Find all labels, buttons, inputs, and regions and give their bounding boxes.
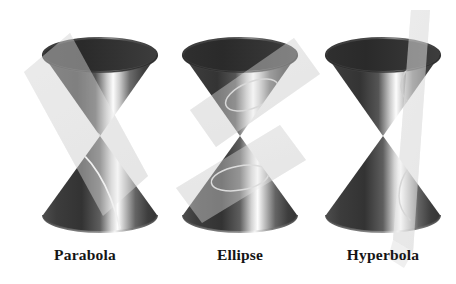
label-ellipse: Ellipse [217,246,263,263]
label-parabola: Parabola [54,246,116,263]
caption-cell-hyperbola: Hyperbola [310,246,456,264]
caption-cell-ellipse: Ellipse [170,246,310,264]
caption-row: Parabola Ellipse Hyperbola [0,246,456,276]
caption-cell-parabola: Parabola [0,246,170,264]
conic-sections-illustration [0,0,456,284]
label-hyperbola: Hyperbola [347,246,419,263]
conic-sections-figure: Parabola Ellipse Hyperbola [0,0,456,284]
